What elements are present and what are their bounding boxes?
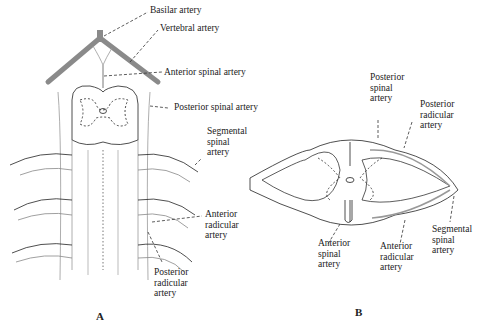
label-line: radicular: [380, 252, 414, 263]
label-line: spinal: [432, 235, 472, 246]
label-line: Segmental: [207, 126, 247, 137]
label-line: Anterior: [380, 241, 414, 252]
label-line: spinal: [370, 83, 404, 94]
label-line: Posterior: [154, 267, 188, 278]
label-line: Posterior: [370, 72, 404, 83]
label-line: artery: [380, 262, 414, 273]
label-posterior-spinal-artery: Posterior spinal artery: [174, 102, 258, 113]
label-segmental-spinal-artery: Segmental spinal artery: [207, 126, 247, 158]
label-line: Segmental: [432, 224, 472, 235]
spinal-cord-blood-supply-figure: Basilar artery Vertebral artery Anterior…: [0, 0, 479, 325]
label-b-posterior-radicular-artery: Posterior radicular artery: [420, 99, 454, 131]
label-b-posterior-spinal-artery: Posterior spinal artery: [370, 72, 404, 104]
label-line: radicular: [154, 278, 188, 289]
label-b-anterior-radicular-artery: Anterior radicular artery: [380, 241, 414, 273]
label-line: radicular: [420, 110, 454, 121]
label-anterior-radicular-artery: Anterior radicular artery: [205, 209, 239, 241]
label-line: spinal: [318, 249, 350, 260]
label-b-anterior-spinal-artery: Anterior spinal artery: [318, 238, 350, 270]
label-line: Posterior: [420, 99, 454, 110]
label-anterior-spinal-artery: Anterior spinal artery: [164, 67, 246, 78]
label-line: artery: [154, 288, 188, 299]
panel-label-a: A: [96, 310, 104, 322]
label-line: artery: [420, 120, 454, 131]
label-line: artery: [205, 230, 239, 241]
label-basilar-artery: Basilar artery: [150, 5, 201, 16]
label-line: Anterior: [318, 238, 350, 249]
label-line: radicular: [205, 220, 239, 231]
label-b-segmental-spinal-artery: Segmental spinal artery: [432, 224, 472, 256]
label-line: artery: [432, 245, 472, 256]
label-line: Anterior: [205, 209, 239, 220]
diagram-drawing: [0, 0, 479, 325]
label-line: artery: [370, 93, 404, 104]
label-posterior-radicular-artery: Posterior radicular artery: [154, 267, 188, 299]
label-line: spinal: [207, 137, 247, 148]
label-line: artery: [318, 259, 350, 270]
panel-label-b: B: [355, 306, 362, 318]
label-line: artery: [207, 147, 247, 158]
label-vertebral-artery: Vertebral artery: [160, 23, 219, 34]
